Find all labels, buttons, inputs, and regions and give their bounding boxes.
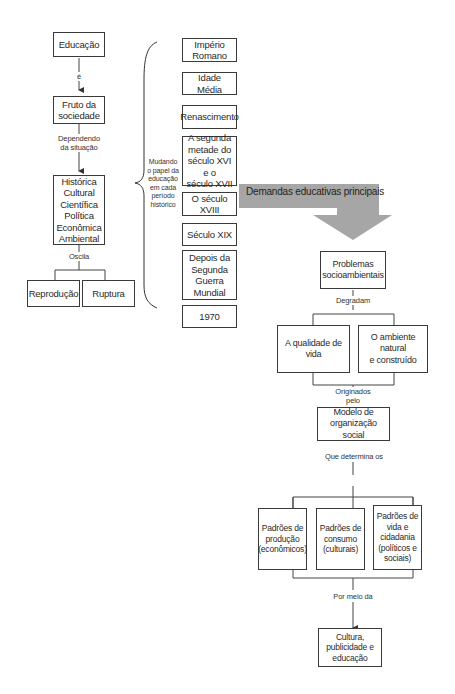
period-middle-ages: Idade Média (182, 72, 237, 95)
period-renaissance: Renascimento (182, 105, 237, 129)
natural-built-environment-box: O ambiente natural e construído (358, 325, 428, 373)
label-determines: Que determina os (318, 452, 390, 461)
label-originated: Originados pelo (330, 387, 376, 405)
label-oscillates: Oscila (64, 252, 94, 261)
period-16th-17th-century: A segunda metade do século XVI e o sécul… (182, 136, 237, 186)
label-through: Por meio da (330, 592, 376, 601)
culture-advertising-education-box: Cultura, publicidade e educação (318, 628, 382, 667)
period-post-wwii: Depois da Segunda Guerra Mundial (182, 250, 237, 300)
label-depending: Dependendo da situação (52, 134, 106, 152)
period-19th-century: Século XIX (182, 223, 237, 246)
period-1970: 1970 (182, 305, 237, 328)
education-box: Educação (53, 32, 105, 57)
brace-label: Mudando o papel da educação em cada perí… (146, 158, 180, 209)
life-citizenship-patterns-box: Padrões de vida e cidadania (políticos e… (373, 505, 422, 570)
period-18th-century: O século XVIII (182, 192, 237, 216)
period-roman-empire: Império Romano (182, 38, 237, 62)
social-organization-model-box: Modelo de organização social (317, 407, 390, 441)
education-concept-diagram: Demandas educativas principais Educação … (0, 0, 455, 694)
demands-banner-label: Demandas educativas principais (246, 186, 384, 197)
quality-of-life-box: A qualidade de vida (277, 325, 350, 373)
production-patterns-box: Padrões de produção (econômicos) (258, 508, 307, 570)
socioenvironmental-problems-box: Problemas socioambientais (320, 251, 386, 289)
rupture-box: Ruptura (82, 280, 135, 307)
label-degrade: Degradam (330, 296, 376, 305)
society-fruit-box: Fruto da sociedade (53, 96, 105, 124)
consumption-patterns-box: Padrões de consumo (culturais) (316, 508, 365, 570)
dimensions-box: Histórica Cultural Científica Política E… (53, 175, 105, 245)
label-is: é (74, 72, 84, 81)
reproduction-box: Reprodução (27, 280, 80, 307)
